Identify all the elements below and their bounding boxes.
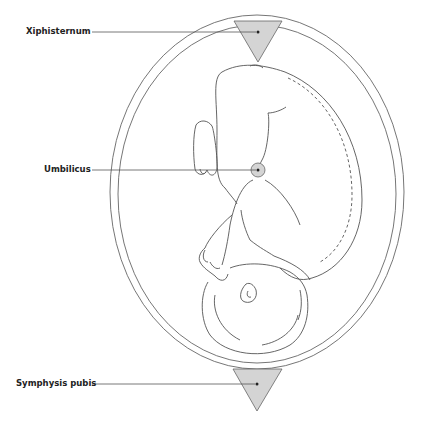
symphysis-pubis-label: Symphysis pubis (16, 378, 96, 388)
xiphisternum-pointer-dot (257, 31, 260, 34)
symphysis-pubis-pointer-dot (256, 383, 259, 386)
uterus-outer-outline (110, 15, 404, 369)
symphysis-pubis-marker (233, 369, 282, 411)
pregnancy-diagram (0, 0, 421, 430)
xiphisternum-label: Xiphisternum (26, 26, 91, 36)
fetus (194, 65, 362, 354)
xiphisternum-marker (234, 21, 282, 62)
umbilicus-label: Umbilicus (44, 164, 91, 174)
uterus-inner-outline (118, 25, 396, 363)
umbilicus-pointer-dot (257, 169, 260, 172)
